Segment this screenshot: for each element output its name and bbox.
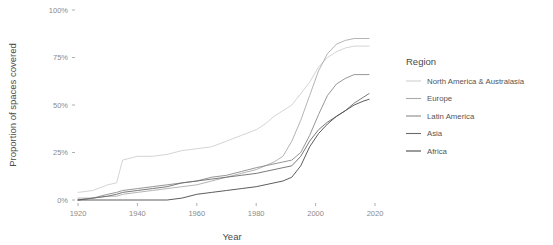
y-tick-label: 100% [49, 6, 69, 15]
series-line-0 [78, 46, 369, 192]
series-line-2 [78, 75, 369, 200]
series-line-3 [78, 94, 369, 200]
legend-item-2[interactable]: Latin America [406, 112, 475, 121]
y-axis: 0%25%50%75%100% [49, 6, 75, 205]
plot-area [78, 39, 369, 201]
y-tick-label: 50% [53, 101, 68, 110]
line-chart: 192019401960198020002020 0%25%50%75%100%… [0, 0, 553, 245]
legend-item-label: Asia [427, 129, 443, 138]
x-tick-label: 2000 [307, 209, 324, 218]
x-axis-title: Year [222, 231, 241, 242]
legend-item-1[interactable]: Europe [406, 94, 452, 103]
legend-item-3[interactable]: Asia [406, 129, 443, 138]
y-tick-label: 25% [53, 148, 68, 157]
x-tick-label: 1960 [188, 209, 205, 218]
series-line-1 [78, 39, 369, 199]
legend-item-label: North America & Australasia [427, 77, 525, 86]
legend-item-label: Africa [427, 147, 448, 156]
x-tick-label: 1940 [129, 209, 146, 218]
x-tick-label: 1980 [248, 209, 265, 218]
legend-item-0[interactable]: North America & Australasia [406, 77, 525, 86]
legend-items: North America & AustralasiaEuropeLatin A… [406, 77, 525, 156]
legend-item-label: Europe [427, 94, 452, 103]
legend: Region North America & AustralasiaEurope… [406, 56, 525, 156]
y-tick-label: 75% [53, 53, 68, 62]
x-axis: 192019401960198020002020 [70, 203, 384, 218]
x-tick-label: 1920 [70, 209, 87, 218]
x-tick-label: 2020 [367, 209, 384, 218]
series-line-4 [78, 99, 369, 200]
series-group [78, 39, 369, 201]
legend-item-4[interactable]: Africa [406, 147, 448, 156]
legend-title: Region [406, 56, 436, 67]
y-axis-title: Proportion of spaces covered [7, 43, 18, 167]
legend-item-label: Latin America [427, 112, 475, 121]
chart-container: 192019401960198020002020 0%25%50%75%100%… [0, 0, 553, 245]
y-tick-label: 0% [57, 196, 68, 205]
